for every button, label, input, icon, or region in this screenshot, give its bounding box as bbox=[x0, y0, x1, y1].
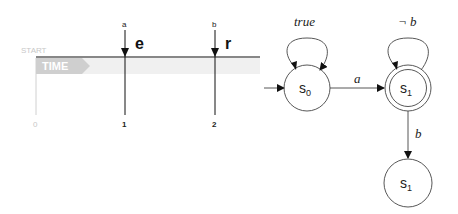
event-input-b: b bbox=[212, 20, 217, 29]
automaton-labels: s0 s1 s1 true a ¬ b b bbox=[294, 14, 422, 193]
event-input-a: a bbox=[122, 20, 127, 29]
tick-label-2: 2 bbox=[212, 120, 217, 129]
start-label: START bbox=[21, 46, 47, 55]
label-b: b bbox=[415, 126, 422, 141]
event-symbol-e: e bbox=[135, 35, 144, 52]
state-s0-label: s0 bbox=[299, 80, 311, 98]
event-arrow-icon-b bbox=[211, 48, 219, 57]
state-s1-label: s1 bbox=[400, 80, 412, 98]
diagram-canvas: TIME START 0 1 a e 2 b r s0 s bbox=[0, 0, 458, 214]
tick-label-1: 1 bbox=[122, 120, 127, 129]
label-true: true bbox=[294, 14, 315, 29]
timeline: TIME START 0 1 a e 2 b r bbox=[21, 20, 260, 129]
time-label: TIME bbox=[42, 60, 68, 72]
label-not-b: ¬ b bbox=[398, 14, 417, 29]
event-arrow-icon-a bbox=[121, 48, 129, 57]
tick-label-0: 0 bbox=[33, 120, 38, 129]
state-s1b-label: s1 bbox=[400, 175, 412, 193]
event-symbol-r: r bbox=[225, 35, 231, 52]
label-a: a bbox=[354, 71, 361, 86]
